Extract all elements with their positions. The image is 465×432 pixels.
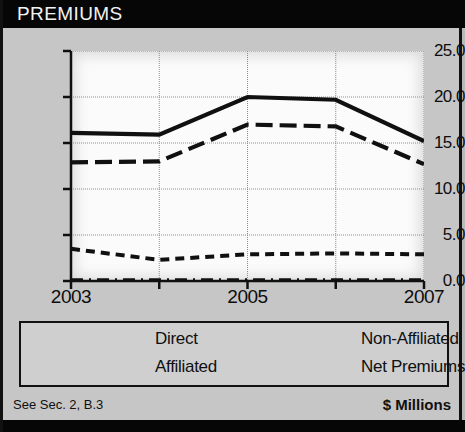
legend-swatch (51, 357, 147, 363)
series-net-premiums (71, 97, 424, 141)
legend-swatch (257, 329, 353, 335)
legend-label: Net Premiums (361, 357, 465, 377)
units-label: $ Millions (383, 396, 451, 413)
series-non-affiliated (71, 125, 424, 165)
x-tick-label: 2003 (31, 286, 111, 308)
bottom-bar (3, 420, 465, 432)
x-tick-label: 2007 (384, 286, 464, 308)
chart-legend: DirectNon-AffiliatedAffiliatedNet Premiu… (19, 321, 449, 387)
legend-swatch (257, 357, 353, 363)
series-affiliated (71, 249, 424, 260)
legend-label: Non-Affiliated (361, 329, 459, 349)
legend-swatch (51, 329, 147, 335)
plot-container: 0.05.010.015.020.025.0 200320052007 (3, 28, 465, 316)
series-lines (71, 51, 424, 281)
plot-area (71, 51, 424, 281)
x-tick-label: 2005 (208, 286, 288, 308)
legend-label: Direct (155, 329, 198, 349)
page-title: PREMIUMS (17, 3, 123, 25)
legend-label: Affiliated (155, 357, 217, 377)
chart-footer: See Sec. 2, B.3 $ Millions (3, 394, 465, 420)
footnote-reference: See Sec. 2, B.3 (13, 397, 103, 412)
chart-title-bar: PREMIUMS (3, 0, 465, 28)
